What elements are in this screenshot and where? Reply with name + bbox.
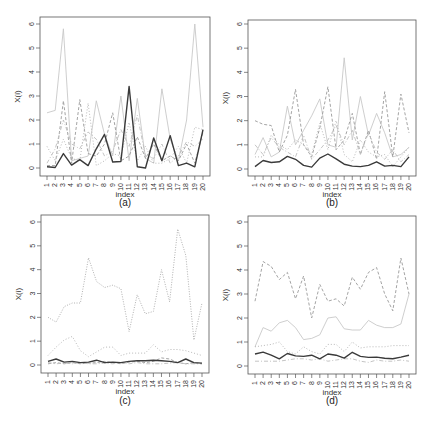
x-tick-label: 5: [76, 380, 83, 384]
y-tick-label: 1: [236, 340, 243, 344]
y-axis-title: X(i): [14, 287, 23, 300]
x-tick-label: 2: [51, 183, 58, 187]
line-series-2: [255, 58, 409, 157]
y-tick-label: 3: [29, 291, 36, 295]
x-tick-label: 15: [364, 183, 371, 191]
plot-frame: [40, 17, 210, 176]
x-tick-label: 1: [251, 183, 258, 187]
y-tick-label: 6: [29, 220, 36, 224]
x-tick-label: 7: [92, 183, 99, 187]
x-tick-label: 6: [84, 183, 91, 187]
x-tick-label: 8: [101, 380, 108, 384]
x-tick-label: 4: [275, 381, 282, 385]
x-tick-label: 4: [68, 380, 75, 384]
x-tick-label: 17: [174, 183, 181, 191]
x-tick-label: 6: [291, 183, 298, 187]
y-tick-label: 3: [28, 94, 35, 98]
line-series-5: [255, 359, 409, 363]
x-tick-label: 4: [67, 183, 74, 187]
panel-caption: (d): [326, 395, 338, 406]
line-series-4: [255, 342, 409, 354]
y-tick-label: 5: [236, 46, 243, 50]
x-tick-label: 3: [60, 380, 67, 384]
x-tick-label: 18: [389, 183, 396, 191]
x-tick-label: 7: [92, 380, 99, 384]
x-tick-label: 14: [356, 381, 363, 389]
x-tick-label: 19: [190, 380, 197, 388]
plot-frame: [41, 215, 209, 373]
panel-caption: (b): [326, 197, 338, 208]
x-tick-label: 19: [397, 183, 404, 191]
x-tick-label: 8: [308, 381, 315, 385]
x-tick-label: 3: [59, 183, 66, 187]
x-tick-label: 1: [251, 381, 258, 385]
y-tick-label: 6: [236, 22, 243, 26]
x-tick-label: 9: [109, 380, 116, 384]
x-tick-label: 8: [308, 183, 315, 187]
x-tick-label: 3: [267, 381, 274, 385]
x-tick-label: 2: [259, 183, 266, 187]
y-tick-label: 1: [28, 142, 35, 146]
panel-caption: (a): [119, 197, 131, 208]
y-axis-title: X(i): [13, 90, 22, 103]
x-tick-label: 7: [299, 381, 306, 385]
figure: 01234561234567891011121314151617181920X(…: [0, 0, 434, 424]
x-tick-label: 9: [109, 183, 116, 187]
y-tick-label: 0: [236, 364, 243, 368]
x-tick-label: 13: [141, 380, 148, 388]
y-tick-label: 0: [29, 363, 36, 367]
x-tick-label: 14: [356, 183, 363, 191]
x-tick-label: 6: [84, 380, 91, 384]
x-tick-label: 16: [372, 381, 379, 389]
x-tick-label: 19: [397, 381, 404, 389]
y-tick-label: 2: [28, 118, 35, 122]
x-tick-label: 16: [372, 183, 379, 191]
x-tick-label: 1: [43, 183, 50, 187]
x-tick-label: 3: [267, 183, 274, 187]
y-tick-label: 3: [236, 94, 243, 98]
x-tick-label: 5: [283, 183, 290, 187]
y-tick-label: 3: [236, 292, 243, 296]
y-tick-label: 0: [236, 167, 243, 171]
x-tick-label: 14: [149, 380, 156, 388]
chart-panel-a: 01234561234567891011121314151617181920X(…: [13, 17, 210, 208]
x-tick-label: 17: [381, 381, 388, 389]
x-tick-label: 17: [174, 380, 181, 388]
line-series-2: [47, 24, 203, 163]
y-tick-label: 2: [236, 316, 243, 320]
x-tick-label: 13: [348, 183, 355, 191]
y-tick-label: 5: [28, 46, 35, 50]
y-tick-label: 2: [29, 315, 36, 319]
x-tick-label: 9: [316, 183, 323, 187]
x-tick-label: 18: [182, 380, 189, 388]
x-tick-label: 7: [299, 183, 306, 187]
x-tick-label: 5: [76, 183, 83, 187]
x-tick-label: 18: [389, 381, 396, 389]
line-series-4: [255, 121, 409, 167]
x-tick-label: 20: [405, 183, 412, 191]
x-tick-label: 15: [364, 381, 371, 389]
x-tick-label: 4: [275, 183, 282, 187]
y-tick-label: 6: [236, 220, 243, 224]
y-tick-label: 1: [29, 339, 36, 343]
line-series-1: [255, 352, 409, 359]
x-tick-label: 18: [182, 183, 189, 191]
y-tick-label: 4: [236, 70, 243, 74]
chart-panel-d: 01234561234567891011121314151617181920X(…: [221, 216, 416, 406]
y-tick-label: 4: [236, 268, 243, 272]
x-tick-label: 13: [141, 183, 148, 191]
x-tick-label: 6: [291, 381, 298, 385]
x-tick-label: 16: [165, 380, 172, 388]
x-tick-label: 13: [348, 381, 355, 389]
x-tick-label: 14: [150, 183, 157, 191]
line-series-2: [255, 258, 409, 318]
x-tick-label: 20: [405, 381, 412, 389]
x-tick-label: 15: [157, 380, 164, 388]
line-series-2: [48, 229, 202, 340]
x-tick-label: 15: [158, 183, 165, 191]
y-tick-label: 1: [236, 143, 243, 147]
x-tick-label: 9: [316, 381, 323, 385]
y-tick-label: 5: [236, 244, 243, 248]
panel-caption: (c): [119, 395, 131, 406]
y-tick-label: 4: [28, 70, 35, 74]
